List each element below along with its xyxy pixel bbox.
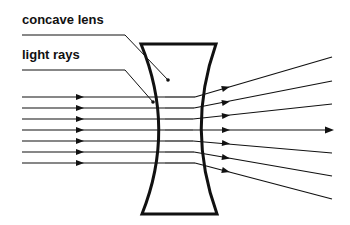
lens-leader-dot bbox=[166, 78, 170, 82]
incoming-arrow-icons bbox=[76, 94, 84, 166]
concave-lens bbox=[141, 44, 217, 214]
outgoing-rays bbox=[193, 57, 332, 199]
internal-rays bbox=[165, 97, 195, 163]
incoming-rays bbox=[22, 97, 165, 163]
rays-leader-dot bbox=[151, 100, 155, 104]
lens-diagram bbox=[0, 0, 350, 225]
